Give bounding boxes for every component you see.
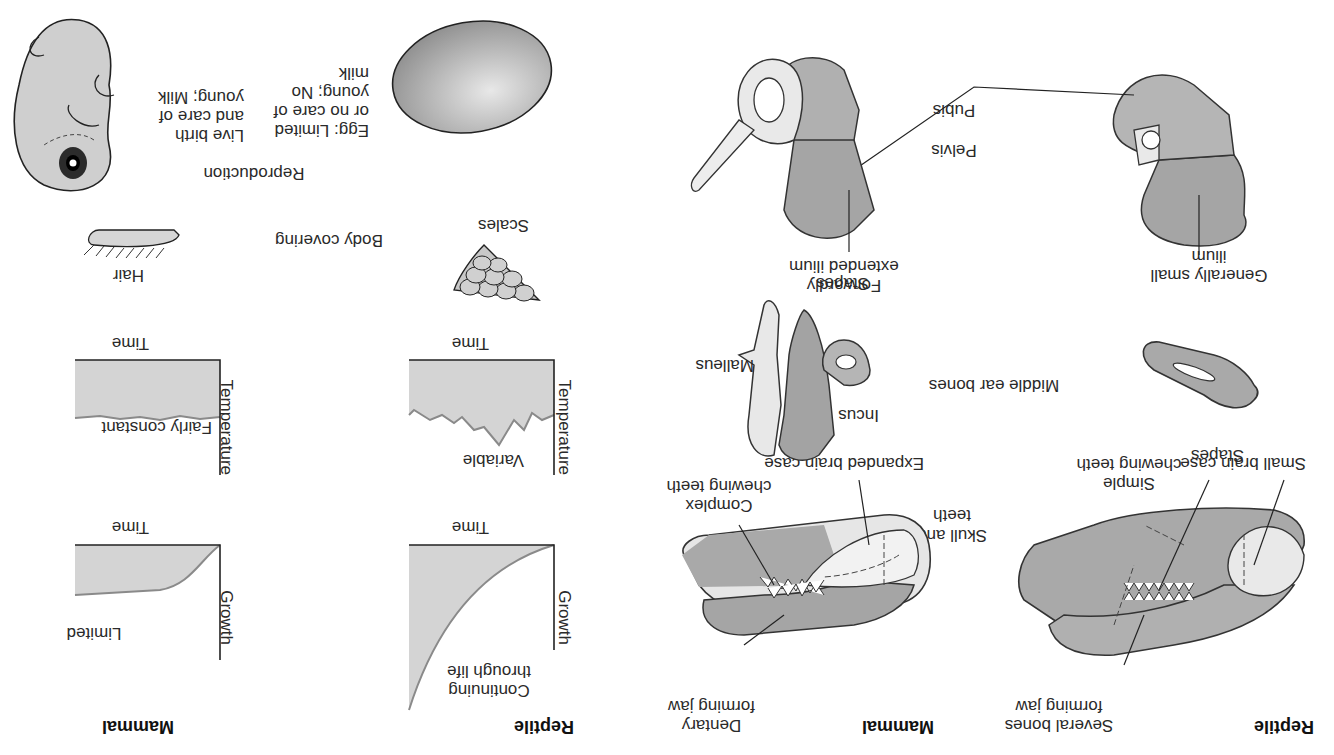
axis-time-growth-mammal: Time [112, 518, 149, 537]
egg-illustration [384, 15, 554, 135]
reptile-mammal-comparison-figure: Reptile Mammal Small brain case Simple c… [0, 0, 1334, 755]
scales-illustration [444, 235, 544, 315]
label-forwardly-extended-ilium: Forwardly extended ilium [779, 257, 909, 295]
axis-growth-reptile: Growth [554, 590, 574, 645]
growth-chart-reptile [404, 540, 554, 710]
header-mammal-physiology: Mammal [102, 716, 174, 737]
row-label-body-covering: Body covering [254, 230, 404, 250]
axis-time-temp-reptile: Time [452, 334, 489, 353]
temperature-chart-mammal [70, 355, 220, 475]
row-label-reproduction: Reproduction [174, 163, 334, 183]
axis-temperature-reptile: Temperature [554, 380, 574, 475]
mammal-pelvis-illustration [684, 40, 904, 250]
label-scales: Scales [478, 216, 529, 235]
label-hair: Hair [113, 266, 144, 285]
axis-time-growth-reptile: Time [452, 518, 489, 537]
mammal-fetus-illustration [4, 10, 139, 205]
axis-time-temp-mammal: Time [112, 334, 149, 353]
hair-illustration [64, 220, 184, 260]
header-reptile-physiology: Reptile [514, 716, 574, 737]
temperature-chart-reptile [404, 355, 554, 475]
growth-chart-mammal [70, 540, 220, 710]
label-live-birth-reproduction: Live birth and care of young; Milk [149, 88, 244, 145]
label-egg-reproduction: Egg: Limited or no care of young; No mil… [259, 64, 369, 140]
